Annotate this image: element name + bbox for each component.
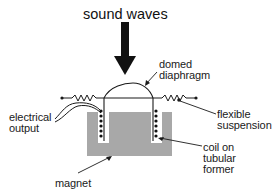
sound-waves-label: sound waves — [83, 7, 168, 22]
moving-coil-microphone-diagram: sound waves domed diaphragm electrical o… — [0, 0, 274, 195]
suspension-anchor-left — [60, 96, 63, 99]
magnet-body — [87, 112, 172, 156]
electrical-output-label-line2: output — [9, 123, 39, 134]
sound-wave-arrow-icon — [114, 22, 136, 75]
domed-diaphragm-label-line2: diaphragm — [159, 70, 210, 81]
flexible-suspension-label-line2: suspension — [217, 120, 272, 131]
coil-right — [154, 109, 157, 137]
suspension-anchor-right — [194, 96, 197, 99]
coil-label-line3: former — [203, 164, 234, 175]
magnet-label: magnet — [55, 178, 91, 189]
coil-left — [99, 109, 102, 137]
